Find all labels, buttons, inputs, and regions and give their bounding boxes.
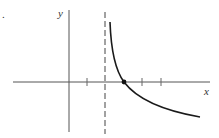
y-axis-label: y: [57, 7, 63, 19]
x-intercept-point: [122, 80, 127, 85]
x-axis-label: x: [203, 85, 209, 97]
function-curve: [110, 22, 200, 117]
figure-marker: .: [2, 8, 5, 20]
graph-figure: . y x: [0, 0, 219, 138]
